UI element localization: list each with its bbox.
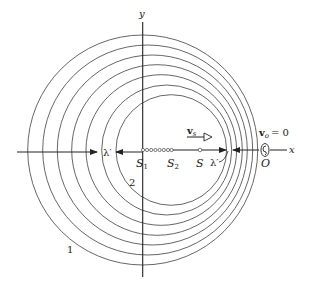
lambda-right-label: λ′	[210, 157, 219, 168]
wavefront-label-1: 1	[67, 244, 73, 255]
source-velocity-arrowhead	[204, 133, 212, 141]
s2-label: S2	[167, 157, 179, 171]
source-velocity-label: vs	[186, 125, 197, 138]
s1-label: S1	[136, 157, 148, 171]
observer-label: O	[261, 157, 270, 170]
observer-velocity-label: vo= 0	[258, 127, 289, 140]
wavefront-label-2: 2	[129, 177, 135, 188]
source-current	[198, 148, 202, 152]
ear-icon	[261, 144, 269, 157]
doppler-diagram: y x λ′ λ′ S1 S2 S vs vo= 0 O 1 2	[0, 0, 311, 283]
s-label: S	[196, 157, 204, 170]
x-axis-label: x	[289, 144, 295, 155]
y-axis-label: y	[138, 8, 145, 19]
lambda-left-label: λ′	[103, 147, 112, 158]
